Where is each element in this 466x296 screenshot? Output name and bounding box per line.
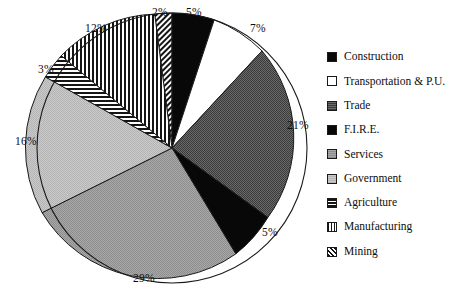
legend-item-trade[interactable]: Trade	[327, 94, 466, 118]
legend-label-services: Services	[344, 149, 383, 161]
legend-item-government[interactable]: Government	[327, 166, 466, 190]
legend-label-trade: Trade	[344, 100, 370, 112]
legend-swatch-transportation	[327, 76, 337, 86]
pie-label-construction: 5%	[186, 6, 202, 18]
legend-swatch-services	[327, 149, 337, 159]
legend-label-construction: Construction	[344, 51, 403, 63]
legend-swatch-fire	[327, 125, 337, 135]
legend-label-agriculture: Agriculture	[344, 197, 397, 209]
legend-label-manufacturing: Manufacturing	[344, 221, 412, 233]
legend-swatch-government	[327, 174, 337, 184]
pie-label-services: 29%	[133, 272, 155, 284]
legend-item-fire[interactable]: F.I.R.E.	[327, 118, 466, 142]
legend-item-mining[interactable]: Mining	[327, 239, 466, 263]
chart-legend: Construction Transportation & P.U. Trade…	[327, 45, 466, 264]
legend-item-transportation[interactable]: Transportation & P.U.	[327, 69, 466, 93]
legend-item-agriculture[interactable]: Agriculture	[327, 191, 466, 215]
legend-swatch-agriculture	[327, 198, 337, 208]
pie-plot-area: 2% 5% 7% 21% 5% 29% 16% 3% 12%	[0, 0, 320, 296]
legend-item-manufacturing[interactable]: Manufacturing	[327, 215, 466, 239]
pie-svg	[0, 0, 320, 296]
legend-label-mining: Mining	[344, 246, 378, 258]
legend-swatch-mining	[327, 247, 337, 257]
pie-label-fire: 5%	[262, 226, 278, 238]
pie-label-agriculture: 3%	[38, 63, 54, 75]
legend-label-transportation: Transportation & P.U.	[344, 76, 445, 88]
legend-swatch-manufacturing	[327, 222, 337, 232]
pie-label-mining: 2%	[152, 6, 168, 18]
legend-swatch-trade	[327, 101, 337, 111]
legend-label-government: Government	[344, 173, 401, 185]
legend-item-services[interactable]: Services	[327, 142, 466, 166]
pie-label-transportation: 7%	[250, 22, 266, 34]
legend-swatch-construction	[327, 52, 337, 62]
pie-label-manufacturing: 12%	[85, 22, 107, 34]
pie-chart-figure: 2% 5% 7% 21% 5% 29% 16% 3% 12% Construct…	[0, 0, 466, 296]
legend-label-fire: F.I.R.E.	[344, 124, 380, 136]
pie-label-trade: 21%	[287, 119, 309, 131]
legend-item-construction[interactable]: Construction	[327, 45, 466, 69]
pie-label-government: 16%	[15, 135, 37, 147]
